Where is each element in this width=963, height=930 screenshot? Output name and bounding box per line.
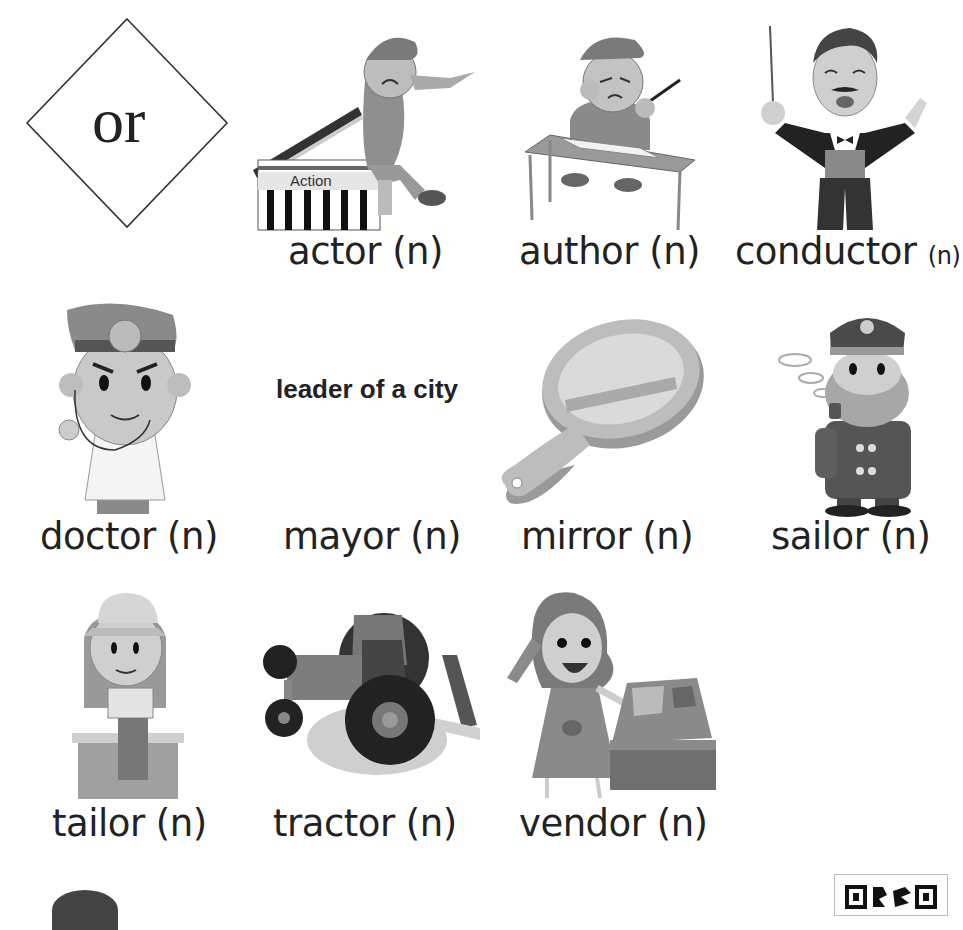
word-label: doctor (n): [40, 515, 218, 558]
sailor-with-pipe-icon: [775, 303, 925, 518]
word-definition: leader of a city: [262, 366, 472, 412]
hand-mirror-icon: [495, 315, 705, 505]
word-label: mayor (n): [283, 515, 461, 558]
connector-word: or: [92, 84, 145, 158]
partial-character-head-icon: [52, 890, 118, 930]
word-label: conductor (n): [735, 230, 960, 273]
word-label: mirror (n): [521, 515, 693, 558]
tailor-with-sewing-machine-icon: [70, 588, 185, 800]
tractor-icon: [262, 610, 482, 780]
word-label: tractor (n): [273, 802, 457, 845]
doctor-with-stethoscope-icon: [55, 300, 195, 515]
word-label: tailor (n): [52, 802, 207, 845]
author-writing-at-desk-icon: [520, 20, 700, 230]
word-label: actor (n): [288, 230, 443, 273]
word-label: sailor (n): [771, 515, 930, 558]
actor-on-clapperboard-icon: Action: [250, 20, 480, 232]
word-label: vendor (n): [519, 802, 708, 845]
vendor-at-market-stall-icon: [492, 588, 722, 800]
clapperboard-text: Action: [290, 172, 332, 189]
qr-code-icon: [834, 874, 948, 916]
word-label: author (n): [519, 230, 700, 273]
conductor-with-baton-icon: [755, 18, 935, 232]
